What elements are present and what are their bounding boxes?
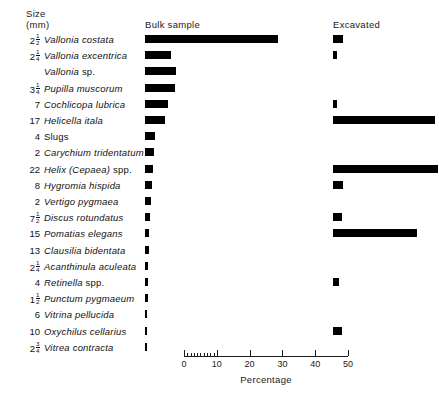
axis-tick-label: 10: [202, 359, 232, 369]
size-value: 112: [4, 292, 40, 306]
bulk-sample-bar: [145, 343, 147, 351]
bulk-sample-bar: [145, 327, 147, 335]
table-row[interactable]: 17Helicella itala: [0, 113, 439, 129]
axis-tick-major: [250, 350, 251, 356]
table-row[interactable]: 112Punctum pygmaeum: [0, 291, 439, 307]
snail-species-percentage-chart: Size (mm) Bulk sample Excavated 212Vallo…: [0, 0, 439, 408]
bulk-sample-bar: [145, 51, 171, 59]
axis-tick-label: 0: [169, 359, 199, 369]
table-row[interactable]: 212Vallonia costata: [0, 32, 439, 48]
size-value: 8: [4, 179, 40, 192]
species-name: Helix (Cepaea) spp.: [44, 163, 132, 176]
species-name: Pomatias elegans: [44, 227, 123, 240]
table-row[interactable]: 2Carychium tridentatum: [0, 145, 439, 161]
excavated-bar: [333, 100, 337, 108]
table-row[interactable]: 4Retinella spp.: [0, 275, 439, 291]
size-value: 212: [4, 33, 40, 47]
size-value: 15: [4, 227, 40, 240]
excavated-column-header: Excavated: [333, 19, 380, 30]
size-value: 4: [4, 130, 40, 143]
table-row[interactable]: 234Vitrea contracta: [0, 340, 439, 356]
excavated-bar: [333, 51, 337, 59]
size-header-line1: Size: [26, 8, 49, 19]
axis-tick-minor: [187, 353, 188, 357]
bulk-sample-bar: [145, 181, 152, 189]
bulk-sample-bar: [145, 213, 150, 221]
axis-tick-minor: [210, 353, 211, 357]
bulk-sample-bar: [145, 132, 155, 140]
axis-tick-minor: [204, 353, 205, 357]
size-value: 17: [4, 114, 40, 127]
table-row[interactable]: 214Vallonia excentrica: [0, 48, 439, 64]
species-name: Cochlicopa lubrica: [44, 98, 125, 111]
bulk-sample-bar: [145, 262, 148, 270]
species-name: Vallonia sp.: [44, 65, 95, 78]
species-name: Slugs: [44, 130, 69, 143]
species-name: Vitrina pellucida: [44, 308, 114, 321]
axis-tick-label: 50: [333, 359, 363, 369]
table-row[interactable]: 13Clausilia bidentata: [0, 243, 439, 259]
species-name: Oxychilus cellarius: [44, 325, 126, 338]
size-value: 712: [4, 211, 40, 225]
size-value: 234: [4, 341, 40, 355]
bulk-sample-bar: [145, 294, 148, 302]
axis-tick-minor: [191, 353, 192, 357]
bulk-sample-bar: [145, 246, 149, 254]
species-name: Pupilla muscorum: [44, 82, 123, 95]
excavated-bar: [333, 181, 343, 189]
table-row[interactable]: 6Vitrina pellucida: [0, 307, 439, 323]
species-name: Vallonia excentrica: [44, 49, 127, 62]
table-row[interactable]: 214Acanthinula aculeata: [0, 259, 439, 275]
size-header-line2: (mm): [26, 19, 49, 30]
axis-tick-label: 30: [267, 359, 297, 369]
species-name: Acanthinula aculeata: [44, 260, 136, 273]
axis-tick-major: [348, 350, 349, 356]
size-value: 10: [4, 325, 40, 338]
size-value: 2: [4, 146, 40, 159]
axis-tick-minor: [207, 353, 208, 357]
excavated-bar: [333, 327, 342, 335]
table-row[interactable]: 712Discus rotundatus: [0, 210, 439, 226]
table-row[interactable]: 4Slugs: [0, 129, 439, 145]
species-name: Hygromia hispida: [44, 179, 121, 192]
bulk-sample-bar: [145, 148, 154, 156]
bulk-sample-column-header: Bulk sample: [145, 19, 200, 30]
excavated-bar: [333, 35, 343, 43]
table-row[interactable]: Vallonia sp.: [0, 64, 439, 80]
species-name: Vitrea contracta: [44, 341, 114, 354]
table-row[interactable]: 2Vertigo pygmaea: [0, 194, 439, 210]
bulk-sample-bar: [145, 35, 278, 43]
bulk-sample-bar: [145, 100, 168, 108]
table-row[interactable]: 8Hygromia hispida: [0, 178, 439, 194]
excavated-bar: [333, 278, 339, 286]
bulk-sample-bar: [145, 165, 153, 173]
size-value: 2: [4, 195, 40, 208]
bulk-sample-bar: [145, 197, 151, 205]
axis-tick-label: 40: [300, 359, 330, 369]
excavated-bar: [333, 213, 342, 221]
bulk-sample-bar: [145, 229, 149, 237]
species-name: Clausilia bidentata: [44, 244, 125, 257]
table-row[interactable]: 314Pupilla muscorum: [0, 81, 439, 97]
axis-title: Percentage: [184, 374, 348, 385]
table-row[interactable]: 22Helix (Cepaea) spp.: [0, 162, 439, 178]
size-value: 214: [4, 260, 40, 274]
axis-tick-label: 20: [235, 359, 265, 369]
table-row[interactable]: 7Cochlicopa lubrica: [0, 97, 439, 113]
species-name: Helicella itala: [44, 114, 103, 127]
size-value: 4: [4, 276, 40, 289]
species-name: Punctum pygmaeum: [44, 292, 134, 305]
excavated-bar: [333, 116, 435, 124]
table-row[interactable]: 15Pomatias elegans: [0, 226, 439, 242]
bulk-sample-bar: [145, 116, 165, 124]
species-name: Discus rotundatus: [44, 211, 123, 224]
axis-tick-major: [217, 350, 218, 356]
axis-tick-minor: [194, 353, 195, 357]
species-name: Vertigo pygmaea: [44, 195, 118, 208]
axis-tick-minor: [214, 353, 215, 357]
table-row[interactable]: 10Oxychilus cellarius: [0, 324, 439, 340]
size-column-header: Size (mm): [26, 8, 49, 30]
species-name: Carychium tridentatum: [44, 146, 144, 159]
bulk-sample-bar: [145, 67, 176, 75]
excavated-bar: [333, 165, 438, 173]
